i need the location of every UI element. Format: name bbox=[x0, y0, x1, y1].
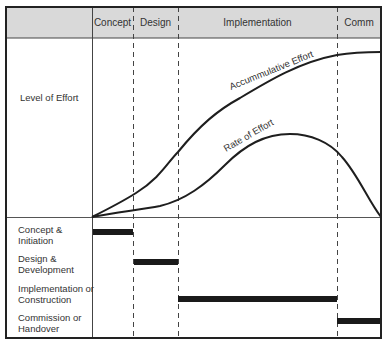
header-band bbox=[6, 7, 381, 38]
rate-of-effort-label: Rate of Effort bbox=[222, 116, 276, 154]
bar-implementation-construction bbox=[178, 296, 337, 302]
row-label-commission-handover: Commission or Handover bbox=[18, 312, 84, 334]
row-label-design-development: Design & Development bbox=[18, 253, 74, 275]
bar-commission-handover bbox=[337, 318, 380, 324]
bar-design-development bbox=[134, 259, 178, 265]
phase-header-design: Design bbox=[140, 17, 171, 28]
accumulative-effort-label: Accummulative Effort bbox=[228, 48, 316, 92]
level-of-effort-label: Level of Effort bbox=[20, 92, 79, 103]
project-lifecycle-diagram: Concept Design Implementation Comm Level… bbox=[0, 0, 386, 344]
bar-concept-initiation bbox=[93, 229, 133, 235]
row-label-concept-initiation: Concept & Initiation bbox=[18, 224, 65, 246]
row-label-implementation-construction: Implementation or Construction bbox=[18, 283, 97, 305]
phase-header-comm: Comm bbox=[344, 17, 373, 28]
phase-header-concept: Concept bbox=[94, 17, 131, 28]
phase-header-implementation: Implementation bbox=[223, 17, 291, 28]
